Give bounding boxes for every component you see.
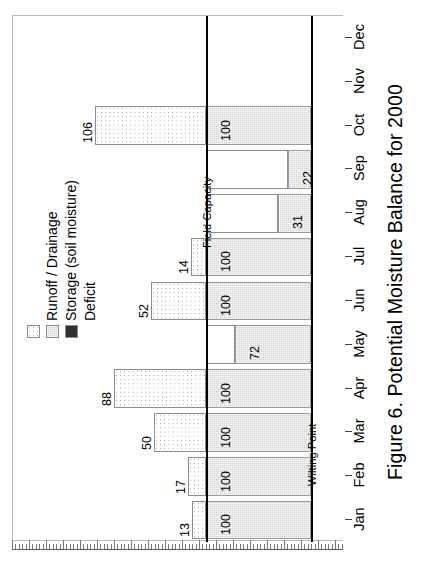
- value-axis-tick: [250, 540, 251, 549]
- bar-value-label-storage-jun: 100: [219, 295, 233, 316]
- value-axis-tick: [60, 544, 61, 549]
- value-axis-tick: [12, 540, 13, 549]
- bar-value-label-runoff-jan: 13: [178, 524, 192, 538]
- value-axis-tick: [77, 544, 78, 549]
- value-axis-tick: [260, 544, 261, 549]
- legend-label-runoff: Runoff / Drainage: [44, 212, 60, 321]
- value-axis-tick: [301, 540, 302, 549]
- bar-segment-runoff-feb: [188, 457, 206, 496]
- value-axis-tick: [19, 544, 20, 549]
- value-axis-tick: [80, 540, 81, 549]
- bar-group-oct: 100106: [13, 106, 344, 145]
- bar-segment-storage-may: [235, 325, 311, 364]
- figure-caption: Figure 6. Potential Moisture Balance for…: [372, 0, 418, 564]
- bar-value-label-storage-apr: 100: [219, 383, 233, 404]
- value-axis-tick: [274, 544, 275, 549]
- value-axis-tick: [151, 544, 152, 549]
- value-axis-tick: [318, 540, 319, 549]
- value-axis-tick: [298, 544, 299, 549]
- value-axis-baseline: [12, 549, 343, 550]
- value-axis-tick: [104, 544, 105, 549]
- bar-value-label-runoff-apr: 88: [100, 392, 114, 406]
- value-axis-tick: [83, 544, 84, 549]
- value-axis-tick: [158, 544, 159, 549]
- value-axis-tick: [321, 544, 322, 549]
- value-axis-tick: [155, 544, 156, 549]
- value-axis-tick: [223, 544, 224, 549]
- value-axis-tick: [219, 544, 220, 549]
- bar-value-label-storage-oct: 100: [219, 120, 233, 141]
- bar-value-label-storage-aug: 31: [291, 215, 305, 229]
- value-axis-tick: [36, 544, 37, 549]
- value-axis-tick: [100, 544, 101, 549]
- plot-area: 1001310017100501008872100521001431221001…: [12, 15, 343, 541]
- value-axis-tick: [165, 540, 166, 549]
- value-axis-tick: [328, 544, 329, 549]
- value-axis-tick: [230, 544, 231, 549]
- bar-group-feb: 10017: [13, 457, 344, 496]
- value-axis-tick: [26, 544, 27, 549]
- value-axis-tick: [267, 540, 268, 549]
- value-axis-tick: [182, 540, 183, 549]
- value-axis-tick: [121, 544, 122, 549]
- value-axis-tick: [304, 544, 305, 549]
- value-axis-tick: [233, 540, 234, 549]
- value-axis-tick: [70, 544, 71, 549]
- legend-swatch-storage-icon: [46, 325, 59, 338]
- value-axis-tick: [199, 540, 200, 549]
- bar-group-mar: 10050: [13, 413, 344, 452]
- value-axis-tick: [325, 544, 326, 549]
- value-axis-tick: [270, 544, 271, 549]
- bar-value-label-storage-feb: 100: [219, 471, 233, 492]
- value-axis-tick: [145, 544, 146, 549]
- value-axis-tick: [175, 544, 176, 549]
- value-axis-tick: [63, 540, 64, 549]
- value-axis-tick: [277, 544, 278, 549]
- value-axis-tick: [114, 540, 115, 549]
- bar-segment-empty-sep: [206, 150, 288, 189]
- value-axis-tick: [39, 544, 40, 549]
- value-axis-tick: [196, 544, 197, 549]
- value-axis-tick: [73, 544, 74, 549]
- bar-value-label-runoff-jun: 52: [137, 304, 151, 318]
- bar-value-label-storage-may: 72: [248, 346, 262, 360]
- value-axis-tick: [226, 544, 227, 549]
- bar-group-jan: 10013: [13, 501, 344, 540]
- value-axis-tick: [247, 544, 248, 549]
- legend-label-storage: Storage (soil moisture): [63, 180, 79, 321]
- value-axis-tick: [107, 544, 108, 549]
- value-axis-tick: [46, 540, 47, 549]
- value-axis-tick: [32, 544, 33, 549]
- value-axis-tick: [53, 544, 54, 549]
- category-axis: JanFebMarAprMayJunJulAugSepOctNovDec: [345, 15, 373, 541]
- value-axis-tick: [315, 544, 316, 549]
- value-axis-tick: [253, 544, 254, 549]
- value-axis-tick: [281, 544, 282, 549]
- bar-segment-runoff-oct: [95, 106, 206, 145]
- field-capacity-label: Field Capacity: [201, 177, 213, 248]
- bar-value-label-runoff-mar: 50: [140, 436, 154, 450]
- value-axis-tick: [87, 544, 88, 549]
- bar-segment-runoff-mar: [154, 413, 207, 452]
- value-axis-tick: [131, 540, 132, 549]
- value-axis-tick: [111, 544, 112, 549]
- value-axis-tick: [49, 544, 50, 549]
- value-axis-tick: [22, 544, 23, 549]
- value-axis-tick: [202, 544, 203, 549]
- value-axis-tick: [185, 544, 186, 549]
- value-axis-tick: [128, 544, 129, 549]
- bar-value-label-runoff-jul: 14: [177, 261, 191, 275]
- value-axis-tick: [257, 544, 258, 549]
- legend-swatch-deficit-icon: [65, 325, 78, 338]
- value-axis-tick: [264, 544, 265, 549]
- value-axis-tick: [179, 544, 180, 549]
- bar-group-apr: 10088: [13, 369, 344, 408]
- value-axis-tick: [243, 544, 244, 549]
- value-axis-tick: [287, 544, 288, 549]
- value-axis-tick: [206, 544, 207, 549]
- value-axis-tick: [172, 544, 173, 549]
- field-capacity-line: [206, 16, 208, 542]
- value-axis-tick: [335, 540, 336, 549]
- value-axis-tick: [29, 540, 30, 549]
- value-axis-tick: [291, 544, 292, 549]
